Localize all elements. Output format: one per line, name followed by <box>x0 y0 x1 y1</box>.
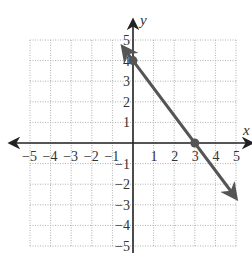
x-tick-label: 2 <box>171 149 178 164</box>
y-tick-label: −5 <box>115 239 130 253</box>
x-tick-label: −5 <box>22 149 37 164</box>
y-tick-label: 2 <box>123 95 130 110</box>
x-tick-label: 5 <box>233 149 240 164</box>
x-tick-label: −2 <box>84 149 99 164</box>
x-axis-label: x <box>242 122 250 138</box>
y-tick-label: 3 <box>123 74 130 89</box>
y-tick-label: −4 <box>115 218 130 233</box>
x-tick-label: −4 <box>43 149 58 164</box>
y-tick-label: −3 <box>115 198 130 213</box>
y-tick-label: 1 <box>123 115 130 130</box>
y-tick-label: 5 <box>123 33 130 48</box>
x-tick-label: 4 <box>212 149 219 164</box>
y-axis-label: y <box>138 12 147 28</box>
y-tick-label: −2 <box>115 177 130 192</box>
data-line <box>123 47 236 198</box>
coordinate-plane: x y −5−4−3−2−112345 54321−1−2−3−4−5 <box>0 0 252 253</box>
x-tick-label: 1 <box>151 149 158 164</box>
intercept-point <box>129 56 138 65</box>
x-tick-label: −3 <box>63 149 78 164</box>
intercept-point <box>190 139 199 148</box>
x-tick-label: 3 <box>192 149 199 164</box>
y-tick-label: −1 <box>115 157 130 172</box>
